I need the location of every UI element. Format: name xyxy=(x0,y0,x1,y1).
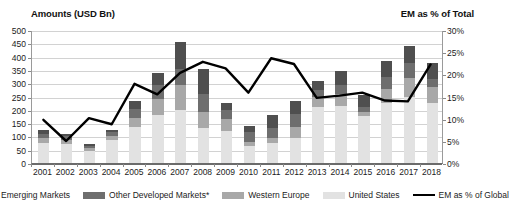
x-tick-label: 2011 xyxy=(260,167,283,177)
x-tick-label: 2004 xyxy=(100,167,123,177)
right-tick-label: 5% xyxy=(447,138,477,146)
x-tick-mark xyxy=(237,164,238,167)
x-axis-tick-labels: 2001200220032004200520062007200820092010… xyxy=(31,167,443,179)
em-percent-line-series xyxy=(32,31,442,163)
x-tick-mark xyxy=(191,164,192,167)
x-tick-label: 2007 xyxy=(168,167,191,177)
x-tick-label: 2016 xyxy=(374,167,397,177)
left-tick-label: 350 xyxy=(0,67,26,75)
x-tick-mark xyxy=(420,164,421,167)
x-tick-mark xyxy=(77,164,78,167)
x-tick-mark xyxy=(168,164,169,167)
legend-item[interactable]: EM as % of Global xyxy=(413,191,509,200)
legend-item[interactable]: United States xyxy=(323,191,400,200)
left-tick-label: 100 xyxy=(0,133,26,141)
x-tick-label: 2010 xyxy=(237,167,260,177)
x-tick-mark xyxy=(123,164,124,167)
x-tick-label: 2013 xyxy=(306,167,329,177)
x-tick-label: 2017 xyxy=(397,167,420,177)
right-tick-mark xyxy=(443,164,446,165)
right-tick-mark xyxy=(443,98,446,99)
x-tick-mark xyxy=(351,164,352,167)
legend-item[interactable]: Western Europe xyxy=(222,191,309,200)
left-tick-label: 150 xyxy=(0,120,26,128)
x-tick-mark xyxy=(145,164,146,167)
left-tick-label: 0 xyxy=(0,160,26,168)
legend-label: United States xyxy=(349,191,400,200)
right-tick-mark xyxy=(443,142,446,143)
legend-label: Western Europe xyxy=(248,191,309,200)
right-tick-mark xyxy=(443,53,446,54)
x-tick-label: 2015 xyxy=(351,167,374,177)
right-tick-label: 15% xyxy=(447,94,477,102)
x-tick-label: 2006 xyxy=(145,167,168,177)
x-tick-mark xyxy=(283,164,284,167)
right-tick-mark xyxy=(443,31,446,32)
x-tick-mark xyxy=(31,164,32,167)
x-tick-label: 2003 xyxy=(77,167,100,177)
x-tick-label: 2012 xyxy=(283,167,306,177)
legend-swatch xyxy=(323,192,345,199)
right-tick-label: 10% xyxy=(447,116,477,124)
legend-label: Other Developed Markets* xyxy=(109,191,209,200)
x-tick-label: 2001 xyxy=(31,167,54,177)
x-tick-label: 2008 xyxy=(191,167,214,177)
right-tick-label: 30% xyxy=(447,27,477,35)
left-axis-title: Amounts (USD Bn) xyxy=(31,8,115,19)
right-tick-mark xyxy=(443,120,446,121)
x-tick-mark xyxy=(54,164,55,167)
x-tick-mark xyxy=(397,164,398,167)
left-tick-label: 50 xyxy=(0,147,26,155)
left-tick-label: 200 xyxy=(0,107,26,115)
x-tick-mark xyxy=(214,164,215,167)
left-tick-label: 300 xyxy=(0,80,26,88)
left-tick-label: 400 xyxy=(0,54,26,62)
x-tick-label: 2005 xyxy=(123,167,146,177)
legend-line-marker xyxy=(413,194,435,196)
right-tick-label: 25% xyxy=(447,49,477,57)
right-tick-label: 20% xyxy=(447,71,477,79)
x-tick-mark xyxy=(306,164,307,167)
x-tick-mark xyxy=(100,164,101,167)
x-tick-mark xyxy=(260,164,261,167)
legend-label: EM as % of Global xyxy=(439,191,509,200)
right-tick-label: 0% xyxy=(447,160,477,168)
legend-label: Emerging Markets xyxy=(1,191,70,200)
legend-item[interactable]: Other Developed Markets* xyxy=(83,191,209,200)
x-tick-label: 2014 xyxy=(329,167,352,177)
left-tick-label: 450 xyxy=(0,40,26,48)
chart-legend: Emerging MarketsOther Developed Markets*… xyxy=(0,187,484,203)
x-tick-label: 2009 xyxy=(214,167,237,177)
x-tick-mark xyxy=(374,164,375,167)
legend-swatch xyxy=(83,192,105,199)
legend-item[interactable]: Emerging Markets xyxy=(0,191,70,200)
right-tick-mark xyxy=(443,75,446,76)
plot-area xyxy=(31,31,443,164)
x-tick-label: 2018 xyxy=(420,167,443,177)
right-axis-title: EM as % of Total xyxy=(401,8,474,19)
left-tick-label: 500 xyxy=(0,27,26,35)
legend-swatch xyxy=(222,192,244,199)
x-tick-label: 2002 xyxy=(54,167,77,177)
x-tick-mark xyxy=(329,164,330,167)
em-percent-line xyxy=(43,58,430,141)
left-tick-label: 250 xyxy=(0,94,26,102)
